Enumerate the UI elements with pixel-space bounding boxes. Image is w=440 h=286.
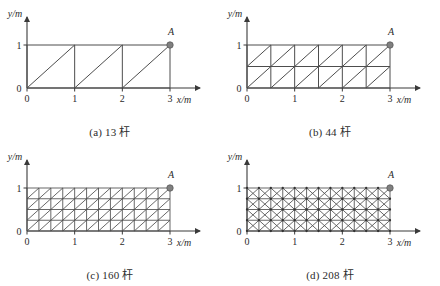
svg-text:1: 1 <box>72 93 77 104</box>
panel-d-drawing: 012301x/my/mA <box>220 143 440 286</box>
panel-d: 012301x/my/mA(d) 208 杆 <box>220 143 440 286</box>
panel-a-point-a-label: A <box>167 26 175 37</box>
svg-text:3: 3 <box>168 236 173 247</box>
svg-text:1: 1 <box>292 236 297 247</box>
panel-d-xlabel: x/m <box>396 237 411 248</box>
panel-a-caption: (a) 13 杆 <box>0 123 220 139</box>
svg-text:1: 1 <box>72 236 77 247</box>
svg-text:1: 1 <box>237 40 242 51</box>
svg-text:0: 0 <box>245 236 250 247</box>
panel-a-ylabel: y/m <box>7 8 22 19</box>
svg-text:2: 2 <box>340 236 345 247</box>
panel-d-point-a-label: A <box>387 169 395 180</box>
svg-text:1: 1 <box>292 93 297 104</box>
panel-c-point-a-marker <box>167 185 173 191</box>
svg-text:1: 1 <box>17 40 22 51</box>
svg-text:2: 2 <box>120 93 125 104</box>
svg-text:0: 0 <box>17 83 22 94</box>
panel-a-ticks: 012301 <box>17 40 173 105</box>
panel-c-ylabel: y/m <box>7 151 22 162</box>
panel-a: 012301x/my/mA(a) 13 杆 <box>0 0 220 143</box>
svg-text:0: 0 <box>25 236 30 247</box>
svg-text:3: 3 <box>388 93 393 104</box>
panel-c-drawing: 012301x/my/mA <box>0 143 220 286</box>
svg-text:0: 0 <box>237 83 242 94</box>
panel-c-caption: (c) 160 杆 <box>0 266 220 282</box>
svg-text:0: 0 <box>25 93 30 104</box>
panel-b-ylabel: y/m <box>227 8 242 19</box>
truss-figure-grid: 012301x/my/mA(a) 13 杆012301x/my/mA(b) 44… <box>0 0 440 286</box>
panel-d-ylabel: y/m <box>227 151 242 162</box>
panel-a-drawing: 012301x/my/mA <box>0 0 220 143</box>
panel-b-drawing: 012301x/my/mA <box>220 0 440 143</box>
panel-b-caption: (b) 44 杆 <box>220 123 440 139</box>
panel-d-point-a-marker <box>387 185 393 191</box>
svg-text:0: 0 <box>17 226 22 237</box>
panel-b-point-a-label: A <box>387 26 395 37</box>
panel-c-point-a-label: A <box>167 169 175 180</box>
svg-text:2: 2 <box>340 93 345 104</box>
svg-text:3: 3 <box>168 93 173 104</box>
panel-b-xlabel: x/m <box>396 94 411 105</box>
svg-text:1: 1 <box>237 183 242 194</box>
panel-c-truss <box>27 188 170 231</box>
panel-b-point-a-marker <box>387 42 393 48</box>
svg-text:1: 1 <box>17 183 22 194</box>
panel-c-xlabel: x/m <box>176 237 191 248</box>
svg-text:2: 2 <box>120 236 125 247</box>
svg-text:3: 3 <box>388 236 393 247</box>
panel-c: 012301x/my/mA(c) 160 杆 <box>0 143 220 286</box>
panel-a-xlabel: x/m <box>176 94 191 105</box>
panel-d-caption: (d) 208 杆 <box>220 266 440 282</box>
panel-a-point-a-marker <box>167 42 173 48</box>
panel-a-truss <box>27 45 170 88</box>
svg-text:0: 0 <box>245 93 250 104</box>
panel-b: 012301x/my/mA(b) 44 杆 <box>220 0 440 143</box>
svg-text:0: 0 <box>237 226 242 237</box>
panel-b-truss <box>247 45 390 88</box>
